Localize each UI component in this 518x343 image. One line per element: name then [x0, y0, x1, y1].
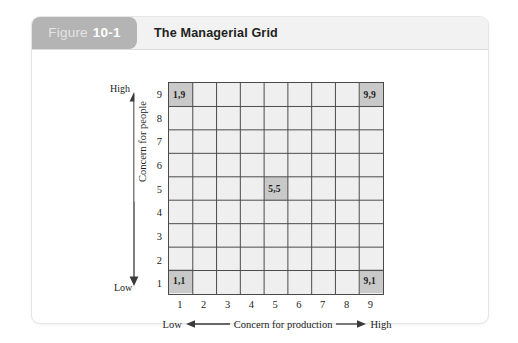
x-axis-tick-labels: 1 2 3 4 5 6 7 8 9 — [168, 299, 384, 313]
figure-tab-number: 10-1 — [93, 25, 121, 40]
x-axis-right-arrow-icon — [336, 319, 366, 329]
x-tick-3: 3 — [218, 299, 238, 310]
figure-card: Figure 10-1 The Managerial Grid High Low… — [31, 16, 489, 324]
figure-header: Figure 10-1 The Managerial Grid — [32, 17, 488, 49]
x-tick-6: 6 — [289, 299, 309, 310]
figure-title: The Managerial Grid — [137, 17, 488, 49]
managerial-grid: 1,9 9,9 5,5 1,1 9,1 — [168, 82, 384, 295]
x-axis-caption: Low Concern for production High — [132, 316, 422, 332]
y-tick-7: 7 — [144, 136, 162, 147]
x-tick-9: 9 — [360, 299, 380, 310]
x-axis-left-arrow-icon — [186, 319, 230, 329]
y-axis-tick-labels: 9 8 7 6 5 4 3 2 1 — [144, 82, 162, 295]
x-tick-8: 8 — [337, 299, 357, 310]
y-tick-3: 3 — [144, 230, 162, 241]
y-tick-1: 1 — [144, 278, 162, 289]
grid-lines — [169, 83, 383, 294]
y-tick-9: 9 — [144, 88, 162, 99]
y-tick-6: 6 — [144, 159, 162, 170]
x-tick-1: 1 — [170, 299, 190, 310]
x-axis-high-label: High — [370, 319, 391, 330]
x-tick-5: 5 — [265, 299, 285, 310]
x-axis-title: Concern for production — [234, 319, 333, 330]
figure-number-tab: Figure 10-1 — [32, 17, 137, 49]
y-tick-5: 5 — [144, 183, 162, 194]
x-tick-7: 7 — [313, 299, 333, 310]
chart-plot-area: High Low Concern for people 9 8 7 6 5 4 … — [32, 50, 488, 324]
x-tick-2: 2 — [194, 299, 214, 310]
x-tick-4: 4 — [241, 299, 261, 310]
y-tick-8: 8 — [144, 112, 162, 123]
x-axis-low-label: Low — [163, 319, 182, 330]
figure-tab-word: Figure — [48, 25, 87, 40]
y-tick-4: 4 — [144, 207, 162, 218]
y-tick-2: 2 — [144, 254, 162, 265]
